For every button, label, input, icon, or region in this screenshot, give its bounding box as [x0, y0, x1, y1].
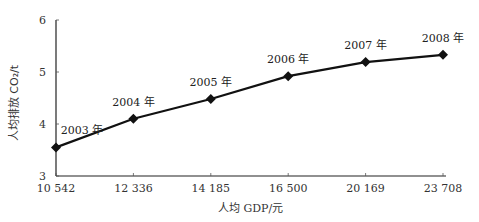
point-label: 2003 年 — [61, 123, 104, 137]
y-axis-label: 人均排放 CO₂/t — [4, 48, 22, 158]
y-tick-label: 5 — [39, 66, 46, 79]
point-label: 2005 年 — [190, 75, 233, 89]
diamond-marker — [283, 71, 293, 81]
x-tick-label: 10 542 — [37, 182, 76, 195]
line-chart: 345610 54212 33614 18516 50020 16923 708… — [0, 0, 479, 222]
point-label: 2007 年 — [344, 38, 387, 52]
series-line — [51, 50, 448, 153]
x-tick-label: 14 185 — [192, 182, 231, 195]
diamond-marker — [361, 57, 371, 67]
diamond-marker — [51, 142, 61, 152]
axes: 345610 54212 33614 18516 50020 16923 708 — [37, 14, 463, 195]
point-label: 2008 年 — [422, 31, 465, 45]
diamond-marker — [128, 114, 138, 124]
diamond-marker — [438, 50, 448, 60]
x-tick-label: 23 708 — [424, 182, 463, 195]
x-tick-label: 12 336 — [114, 182, 153, 195]
x-tick-label: 16 500 — [269, 182, 308, 195]
x-axis-label-text: 人均 GDP/元 — [218, 199, 283, 215]
y-tick-label: 4 — [39, 118, 46, 131]
x-tick-label: 20 169 — [346, 182, 385, 195]
y-axis-label-text: 人均排放 CO₂/t — [5, 65, 21, 141]
diamond-marker — [206, 94, 216, 104]
x-axis-label: 人均 GDP/元 — [0, 199, 479, 215]
point-label: 2006 年 — [267, 52, 310, 66]
point-label: 2004 年 — [112, 95, 155, 109]
y-tick-label: 6 — [39, 14, 46, 27]
